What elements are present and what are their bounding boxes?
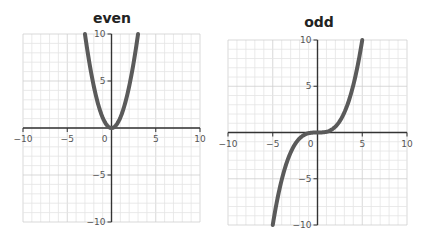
- even-chart-plot: −10−50510−10−5510: [14, 29, 206, 227]
- x-tick-label: 5: [153, 134, 159, 144]
- x-tick-label: 10: [401, 139, 413, 149]
- y-tick-label: −5: [92, 170, 105, 180]
- y-tick-label: 10: [94, 29, 106, 39]
- x-tick-label: −5: [61, 134, 74, 144]
- y-tick-label: −10: [87, 217, 106, 227]
- charts-canvas: −10−50510−10−5510−10−50510−10−5510: [0, 0, 426, 239]
- x-tick-label: −5: [266, 139, 279, 149]
- y-tick-label: 5: [306, 81, 312, 91]
- y-tick-label: −10: [293, 220, 312, 230]
- x-tick-label: 10: [194, 134, 206, 144]
- x-tick-label: 0: [102, 134, 108, 144]
- y-tick-label: −5: [298, 174, 311, 184]
- x-tick-label: −10: [219, 139, 238, 149]
- x-tick-label: −10: [14, 134, 33, 144]
- odd-chart-plot: −10−50510−10−5510: [219, 35, 413, 230]
- x-tick-label: 5: [359, 139, 365, 149]
- y-tick-label: 10: [300, 35, 312, 45]
- x-tick-label: 0: [308, 139, 314, 149]
- y-tick-label: 5: [100, 76, 106, 86]
